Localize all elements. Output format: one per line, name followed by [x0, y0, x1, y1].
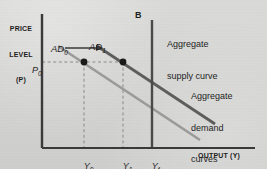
x-tick-y1-sub: 1	[129, 166, 133, 169]
y-tick-label-p0: P0	[27, 55, 42, 77]
curve-label-ad0-sub: 0	[64, 49, 68, 56]
annotation-demand-line1: Aggregate	[191, 91, 233, 102]
curve-label-ad0-text: AD	[51, 43, 64, 54]
equilibrium-dot-e1	[120, 59, 127, 66]
annotation-supply-line1: Aggregate	[167, 39, 218, 50]
x-tick-y0-sub: 0	[90, 166, 94, 169]
curve-label-ad0: AD0	[46, 32, 68, 56]
equilibrium-dot-e0	[81, 59, 88, 66]
x-tick-yf-sub: f	[158, 166, 160, 169]
panel-label: B	[135, 10, 142, 20]
curve-label-ad1-text: AD	[89, 41, 102, 52]
y-axis-title-line1: PRICE	[4, 25, 38, 34]
x-tick-label-y1: Y1	[118, 151, 132, 169]
y-axis-title-line3: (P)	[4, 76, 38, 85]
y-axis-title: PRICE LEVEL (P)	[4, 8, 38, 93]
y-tick-p0-sub: 0	[38, 70, 42, 77]
annotation-demand-line3: curves	[191, 154, 233, 165]
x-tick-label-y0: Y0	[79, 151, 93, 169]
x-tick-label-yf: Yf	[147, 151, 160, 169]
annotation-aggregate-demand: Aggregate demand curves	[191, 70, 233, 169]
curve-label-ad1-sub: 1	[102, 47, 106, 54]
annotation-demand-line2: demand	[191, 123, 233, 134]
curve-label-ad1: AD1	[84, 30, 106, 54]
